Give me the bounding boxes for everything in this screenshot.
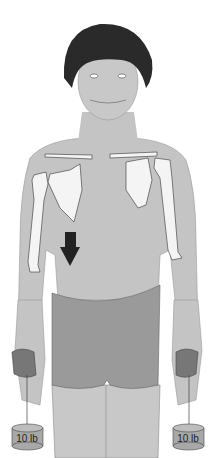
left-weight-label: 10 lb — [12, 433, 42, 444]
right-weight-label: 10 lb — [173, 433, 203, 444]
shorts — [52, 285, 160, 389]
right-wrist-strap — [176, 349, 198, 377]
figure-illustration — [0, 0, 216, 458]
left-wrist-strap — [12, 349, 36, 377]
